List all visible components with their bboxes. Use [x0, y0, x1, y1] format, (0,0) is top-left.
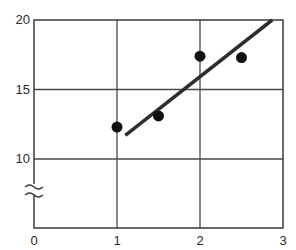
plot-border: [34, 20, 283, 228]
x-tick-label: 0: [30, 233, 37, 248]
x-tick-label: 3: [279, 233, 286, 248]
fit-line: [125, 20, 272, 135]
data-point-marker: [195, 51, 206, 62]
x-tick-label: 1: [113, 233, 120, 248]
y-tick-labels: 101520: [16, 12, 30, 166]
y-tick-label: 10: [16, 151, 30, 166]
y-tick-label: 15: [16, 82, 30, 97]
grid-lines: [34, 20, 283, 228]
plot-frame: [34, 20, 283, 228]
x-tick-labels: 0123: [30, 233, 286, 248]
data-point-marker: [112, 122, 123, 133]
axis-break-icon: [25, 184, 43, 197]
scatter-chart: 0123 101520: [0, 0, 296, 250]
regression-line: [125, 20, 272, 135]
data-point-marker: [153, 110, 164, 121]
x-tick-label: 2: [196, 233, 203, 248]
y-tick-label: 20: [16, 12, 30, 27]
data-point-marker: [236, 52, 247, 63]
